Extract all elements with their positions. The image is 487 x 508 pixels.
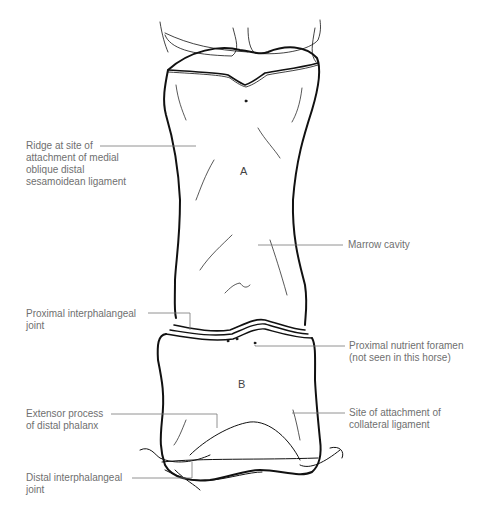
label-ridge: Ridge at site of attachment of medial ob… — [26, 140, 126, 188]
label-proximal-interphalangeal-joint: Proximal interphalangeal joint — [26, 308, 136, 332]
label-distal-interphalangeal-joint: Distal interphalangeal joint — [26, 472, 122, 496]
leader-nutrient — [255, 345, 345, 346]
leader-extensor — [111, 414, 217, 428]
proximal-phalanx-sketch — [160, 20, 321, 62]
leader-dip — [132, 462, 192, 478]
bone-label-a: A — [240, 165, 247, 177]
label-proximal-nutrient-foramen: Proximal nutrient foramen (not seen in t… — [349, 340, 464, 364]
label-extensor-process: Extensor process of distal phalanx — [26, 408, 103, 432]
middle-phalanx-outline — [164, 47, 319, 325]
label-collateral-ligament: Site of attachment of collateral ligamen… — [349, 407, 441, 431]
bone-label-b: B — [238, 378, 245, 390]
label-marrow-cavity: Marrow cavity — [348, 239, 410, 251]
